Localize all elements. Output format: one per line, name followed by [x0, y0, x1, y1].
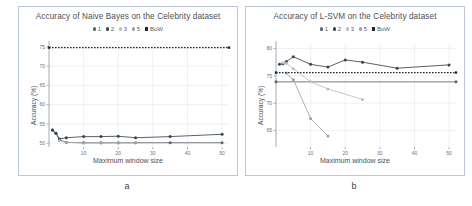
figure-container: Accuracy of Naive Bayes on the Celebrity…: [0, 0, 472, 206]
svg-text:65: 65: [266, 127, 272, 133]
svg-text:70: 70: [266, 100, 272, 106]
chart-panel-lsvm: Accuracy of L-SVM on the Celebrity datas…: [245, 6, 465, 176]
svg-text:40: 40: [185, 150, 191, 156]
svg-text:20: 20: [115, 150, 121, 156]
svg-text:75: 75: [266, 73, 272, 79]
svg-text:40: 40: [412, 150, 418, 156]
svg-text:75: 75: [39, 44, 45, 50]
svg-text:65: 65: [39, 82, 45, 88]
y-axis-label-lsvm: Accuracy (%): [257, 86, 264, 125]
svg-text:60: 60: [39, 101, 45, 107]
subfigure-caption-a: a: [18, 181, 236, 191]
chart-panel-naive-bayes: Accuracy of Naive Bayes on the Celebrity…: [18, 6, 238, 176]
svg-text:50: 50: [219, 150, 225, 156]
svg-text:80: 80: [266, 45, 272, 51]
x-axis-label-lsvm: Maximum window size: [246, 157, 464, 164]
svg-text:50: 50: [446, 150, 452, 156]
svg-text:30: 30: [377, 150, 383, 156]
subfigure-caption-b: b: [245, 181, 463, 191]
svg-text:30: 30: [150, 150, 156, 156]
y-axis-label-naive-bayes: Accuracy (%): [30, 86, 37, 125]
svg-text:20: 20: [342, 150, 348, 156]
plot-area-lsvm: 657075801020304050: [246, 7, 464, 175]
x-axis-label-naive-bayes: Maximum window size: [19, 157, 237, 164]
svg-text:50: 50: [39, 140, 45, 146]
svg-text:55: 55: [39, 121, 45, 127]
plot-area-naive-bayes: 5055606570751020304050: [19, 7, 237, 175]
svg-text:70: 70: [39, 63, 45, 69]
svg-text:10: 10: [81, 150, 87, 156]
svg-text:10: 10: [308, 150, 314, 156]
